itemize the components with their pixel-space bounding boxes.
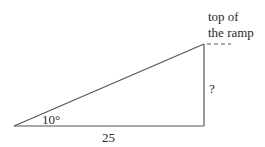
top-label-line2: the ramp <box>208 25 254 40</box>
angle-label: 10° <box>42 112 60 127</box>
base-label: 25 <box>102 130 115 145</box>
ramp-diagram: 10° 25 ? top of the ramp <box>0 0 265 147</box>
height-label: ? <box>209 81 215 96</box>
top-label-line1: top of <box>208 9 239 24</box>
